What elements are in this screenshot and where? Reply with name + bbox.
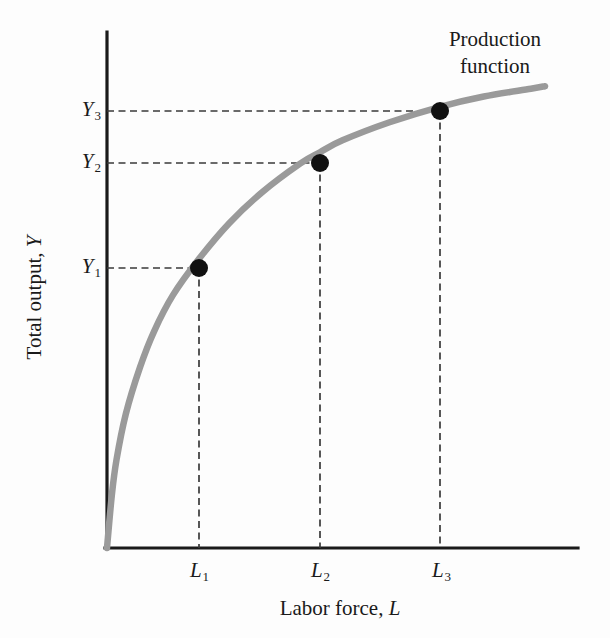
x-axis-title: Labor force, L xyxy=(160,596,520,621)
x-axis-title-symbol: L xyxy=(389,596,401,620)
y-tick-label-y1: Y1 xyxy=(48,256,100,277)
y-tick-sub-y2: 2 xyxy=(95,160,102,175)
x-axis-title-text: Labor force, xyxy=(280,596,389,620)
x-tick-sub-l2: 2 xyxy=(324,569,331,584)
x-tick-symbol-l3: L xyxy=(432,558,444,582)
x-tick-label-l3: L3 xyxy=(411,560,471,581)
x-tick-sub-l3: 3 xyxy=(445,569,452,584)
y-tick-sub-y3: 3 xyxy=(95,108,102,123)
data-point-2 xyxy=(311,154,329,172)
y-tick-symbol-y2: Y xyxy=(82,149,94,173)
production-function-chart xyxy=(0,0,610,638)
data-point-3 xyxy=(431,102,449,120)
x-tick-label-l1: L1 xyxy=(169,560,229,581)
x-tick-sub-l1: 1 xyxy=(203,569,210,584)
y-axis-title: Total output, Y xyxy=(22,188,47,408)
y-axis-title-symbol: Y xyxy=(22,236,46,248)
curve-annotation-line-1: Production xyxy=(400,26,590,53)
x-tick-symbol-l1: L xyxy=(190,558,202,582)
production-function-curve xyxy=(107,86,545,548)
curve-annotation: Production function xyxy=(400,26,590,80)
x-tick-symbol-l2: L xyxy=(311,558,323,582)
y-axis-title-text: Total output, xyxy=(22,247,46,359)
curve-annotation-line-2: function xyxy=(400,53,590,80)
data-point-1 xyxy=(190,259,208,277)
x-tick-label-l2: L2 xyxy=(290,560,350,581)
y-tick-label-y3: Y3 xyxy=(48,99,100,120)
y-tick-sub-y1: 1 xyxy=(95,265,102,280)
production-function-figure: Y3 Y2 Y1 L1 L2 L3 Total output, Y Labor … xyxy=(0,0,610,638)
y-tick-label-y2: Y2 xyxy=(48,151,100,172)
y-tick-symbol-y3: Y xyxy=(82,97,94,121)
y-tick-symbol-y1: Y xyxy=(82,254,94,278)
